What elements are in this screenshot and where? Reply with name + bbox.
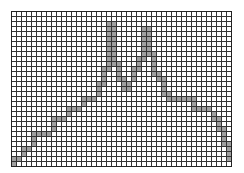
shaded-cell xyxy=(182,97,186,101)
shaded-cell xyxy=(107,32,111,36)
shaded-cell xyxy=(107,37,111,41)
shaded-cell xyxy=(117,72,121,76)
shaded-cell xyxy=(152,52,156,56)
shaded-cell xyxy=(142,42,146,46)
shaded-cell xyxy=(37,132,41,136)
shaded-cell xyxy=(87,97,91,101)
shaded-cell xyxy=(217,122,221,126)
shaded-cell xyxy=(22,147,26,151)
shaded-cell xyxy=(112,22,116,26)
shaded-cell xyxy=(142,32,146,36)
shaded-cell xyxy=(117,67,121,71)
shaded-cell xyxy=(222,132,226,136)
shaded-cell xyxy=(177,97,181,101)
shaded-cell xyxy=(122,77,126,81)
shaded-cell xyxy=(107,57,111,61)
shaded-cell xyxy=(147,32,151,36)
shaded-cell xyxy=(112,32,116,36)
shaded-cell xyxy=(172,97,176,101)
shaded-cell xyxy=(17,157,21,161)
shaded-cell xyxy=(137,62,141,66)
shaded-cell xyxy=(47,132,51,136)
shaded-cell xyxy=(137,57,141,61)
shaded-cell xyxy=(62,117,66,121)
shaded-cell xyxy=(152,57,156,61)
shaded-cell xyxy=(127,82,131,86)
shaded-cell xyxy=(192,102,196,106)
shaded-cell xyxy=(32,132,36,136)
shaded-cell xyxy=(142,27,146,31)
shaded-cell xyxy=(227,142,231,146)
shaded-cell xyxy=(32,137,36,141)
shaded-cell xyxy=(152,72,156,76)
shaded-cell xyxy=(137,67,141,71)
shaded-cell xyxy=(112,27,116,31)
shaded-cell xyxy=(117,77,121,81)
shaded-cell xyxy=(52,127,56,131)
shaded-cell xyxy=(227,152,231,156)
shaded-cell xyxy=(27,147,31,151)
shaded-cell xyxy=(57,117,61,121)
shaded-cell xyxy=(197,107,201,111)
shaded-cell xyxy=(102,77,106,81)
shaded-cell xyxy=(107,52,111,56)
shaded-cell xyxy=(112,47,116,51)
shaded-cell xyxy=(202,107,206,111)
grid-svg xyxy=(11,11,232,167)
shaded-cell xyxy=(77,107,81,111)
shaded-cell xyxy=(142,57,146,61)
shaded-cell xyxy=(12,162,16,166)
shaded-cell xyxy=(187,97,191,101)
shaded-cell xyxy=(217,117,221,121)
shaded-cell xyxy=(102,72,106,76)
shaded-cell xyxy=(67,107,71,111)
shaded-cell xyxy=(212,117,216,121)
shaded-cell xyxy=(162,92,166,96)
shaded-cell xyxy=(97,82,101,86)
shaded-cell xyxy=(42,132,46,136)
shaded-cell xyxy=(167,92,171,96)
shaded-cell xyxy=(112,37,116,41)
shaded-cell xyxy=(97,92,101,96)
shaded-cell xyxy=(157,72,161,76)
shaded-cell xyxy=(132,67,136,71)
shaded-cell xyxy=(82,102,86,106)
shaded-cell xyxy=(107,67,111,71)
shaded-cell xyxy=(207,107,211,111)
shaded-cell xyxy=(227,157,231,161)
chart-canvas xyxy=(0,0,244,173)
shaded-cell xyxy=(147,52,151,56)
shaded-cell xyxy=(72,107,76,111)
shaded-cell xyxy=(142,47,146,51)
shaded-cell xyxy=(52,122,56,126)
shaded-cell xyxy=(112,52,116,56)
shaded-cell xyxy=(107,27,111,31)
shaded-cell xyxy=(162,82,166,86)
shaded-cell xyxy=(157,77,161,81)
shaded-cell xyxy=(142,52,146,56)
shaded-cell xyxy=(222,137,226,141)
shaded-cell xyxy=(222,142,226,146)
shaded-cell xyxy=(107,62,111,66)
shaded-cell xyxy=(227,147,231,151)
shaded-cell xyxy=(147,37,151,41)
shaded-cell xyxy=(147,42,151,46)
shaded-cell xyxy=(32,142,36,146)
shaded-cell xyxy=(92,97,96,101)
shaded-cell xyxy=(22,152,26,156)
shaded-cell xyxy=(212,112,216,116)
shaded-cell xyxy=(142,37,146,41)
shaded-cell xyxy=(52,117,56,121)
shaded-cell xyxy=(192,97,196,101)
shaded-cell xyxy=(192,107,196,111)
shaded-cell xyxy=(122,87,126,91)
shaded-cell xyxy=(12,157,16,161)
shaded-cell xyxy=(112,62,116,66)
shaded-cell xyxy=(107,22,111,26)
shaded-cell xyxy=(217,127,221,131)
shaded-cell xyxy=(152,62,156,66)
shaded-cell xyxy=(102,67,106,71)
shaded-cell xyxy=(147,47,151,51)
shaded-cell xyxy=(112,57,116,61)
shaded-cell xyxy=(97,87,101,91)
